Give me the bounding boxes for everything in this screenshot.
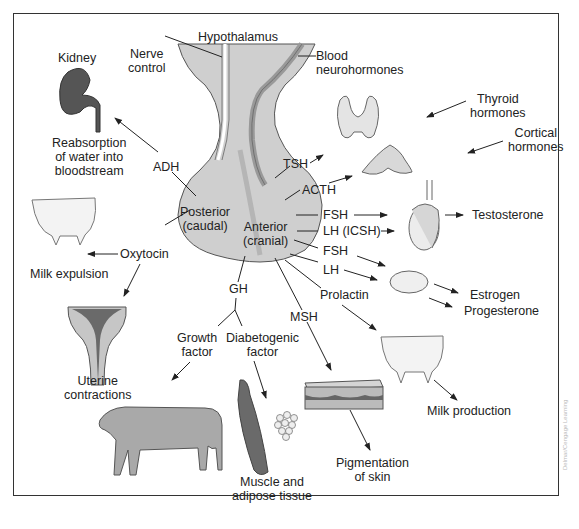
label-line: neurohormones [316,63,404,77]
label-estrogen: Estrogen [470,288,520,302]
kidney-icon [60,68,100,132]
label-line: hormones [470,106,526,120]
label-line: Nerve [128,47,166,61]
testis-icon [409,180,439,250]
label-hypothalamus: Hypothalamus [198,30,278,44]
label-fsh-female: FSH [323,244,348,258]
label-prolactin: Prolactin [320,288,369,302]
label-line: of water into [52,150,126,164]
label-line: Diabetogenic [226,331,299,345]
label-line: hormones [508,140,564,154]
label-testosterone: Testosterone [472,208,544,222]
udder-icon-production [381,336,443,383]
adipose-cells-icon [275,412,298,441]
label-line: adipose tissue [232,489,312,503]
cow-icon [99,407,222,475]
label-line: (cranial) [243,234,288,248]
label-line: control [128,61,166,75]
label-line: Blood [316,49,404,63]
label-line: of skin [336,470,409,484]
label-line: (caudal) [180,219,230,233]
label-blood-neurohormones: Blood neurohormones [316,49,404,77]
diagram-artwork [0,0,579,529]
label-acth: ACTH [302,183,336,197]
ovary-icon [390,271,428,293]
udder-icon-expulsion [32,198,96,245]
label-lh-female: LH [323,263,339,277]
label-line: Pigmentation [336,456,409,470]
thyroid-icon [337,96,378,138]
label-milk-expulsion: Milk expulsion [30,267,109,281]
credit-line: Delmar/Cengage Learning [562,400,568,470]
label-fsh-male: FSH [323,208,348,222]
label-oxytocin: Oxytocin [120,247,169,261]
label-diabetogenic-factor: Diabetogenic factor [226,331,299,359]
label-line: Posterior [180,205,230,219]
label-line: Thyroid [470,92,526,106]
skin-section-icon [305,380,383,409]
label-growth-factor: Growth factor [177,331,217,359]
label-line: Cortical [508,126,564,140]
label-line: Anterior [243,220,288,234]
label-muscle-adipose: Muscle and adipose tissue [232,475,312,503]
label-line: contractions [64,388,131,402]
label-pigmentation: Pigmentation of skin [336,456,409,484]
label-progesterone: Progesterone [464,304,539,318]
label-line: Growth [177,331,217,345]
label-line: bloodstream [52,164,126,178]
label-adh: ADH [153,160,179,174]
label-line: Uterine [64,374,131,388]
label-posterior: Posterior (caudal) [180,205,230,233]
muscle-icon [238,380,268,475]
label-kidney: Kidney [58,51,96,65]
label-nerve-control: Nerve control [128,47,166,75]
label-uterine-contractions: Uterine contractions [64,374,131,402]
label-cortical-hormones: Cortical hormones [508,126,564,154]
label-lh-icsh: LH (ICSH) [323,224,381,238]
label-line: Muscle and [232,475,312,489]
label-gh: GH [229,282,248,296]
label-thyroid-hormones: Thyroid hormones [470,92,526,120]
adrenal-gland-icon [362,145,412,174]
label-msh: MSH [290,310,318,324]
label-anterior: Anterior (cranial) [243,220,288,248]
label-line: factor [226,345,299,359]
label-line: factor [177,345,217,359]
label-line: Reabsorption [52,136,126,150]
label-milk-production: Milk production [427,404,511,418]
label-reabsorption: Reabsorption of water into bloodstream [52,136,126,178]
label-tsh: TSH [283,157,308,171]
